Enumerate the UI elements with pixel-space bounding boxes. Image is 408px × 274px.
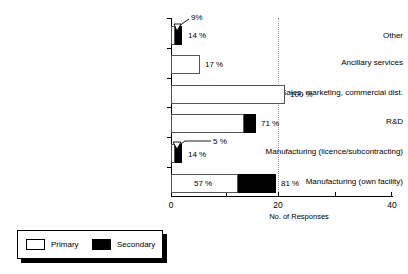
legend-swatch-primary-icon (26, 239, 45, 250)
value-mfg-licence-secondary: 14 % (188, 150, 206, 160)
legend-item-secondary: Secondary (92, 239, 155, 250)
legend-swatch-secondary-icon (92, 239, 111, 250)
y-tick-top (167, 18, 172, 19)
legend-item-primary: Primary (26, 239, 79, 250)
bar-mfg-licence-secondary (175, 144, 182, 163)
category-label-mfg-licence: Manufacturing (licence/subcontracting) (242, 147, 408, 157)
legend-label-secondary: Secondary (117, 240, 155, 250)
leader-line-other-9pct (179, 19, 189, 26)
x-tick-label-0: 0 (156, 200, 186, 210)
legend: Primary Secondary (17, 230, 163, 259)
x-tick-label-20: 20 (263, 200, 293, 210)
x-tick-20 (278, 192, 279, 197)
legend-label-primary: Primary (51, 240, 79, 250)
category-label-ancillary: Ancillary services (242, 58, 408, 68)
value-mfg-own-total: 81 % (281, 179, 299, 189)
bar-ancillary-primary (171, 55, 200, 74)
bar-mfg-own-secondary (238, 174, 276, 193)
value-sales-primary: 100 % (290, 90, 313, 100)
y-tick-3 (167, 107, 172, 108)
value-other-secondary: 14 % (188, 31, 206, 41)
bar-sales-primary (171, 85, 285, 104)
x-axis-spine (171, 196, 393, 197)
y-tick-4 (167, 137, 172, 138)
x-tick-label-40: 40 (377, 200, 407, 210)
y-tick-1 (167, 48, 172, 49)
value-other-primary: 9% (191, 13, 203, 23)
value-mfg-own-primary: 57 % (194, 179, 212, 189)
x-tick-30 (335, 192, 336, 197)
x-tick-40 (391, 192, 392, 197)
value-mfg-licence-primary: 5 % (213, 137, 227, 147)
bar-rd-primary (171, 114, 244, 133)
bar-other-secondary (175, 26, 182, 45)
x-axis-title: No. of Responses (244, 212, 354, 221)
value-ancillary-primary: 17 % (205, 60, 223, 70)
y-tick-5 (167, 167, 172, 168)
gridline-at-20 (278, 18, 279, 196)
category-label-other: Other (242, 31, 408, 41)
bar-chart: 0 20 40 No. of Responses Other Ancillary… (0, 0, 408, 274)
value-rd-total: 71 % (261, 119, 279, 129)
leader-line-mfg-licence-5pct (178, 141, 211, 146)
bar-rd-secondary (244, 114, 256, 133)
y-tick-2 (167, 78, 172, 79)
